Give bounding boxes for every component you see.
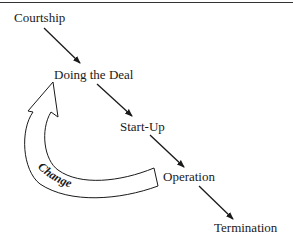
arrow-deal-to-startup: [97, 84, 132, 116]
change-feedback-arrow-icon: [25, 82, 158, 198]
stage-start-up: Start-Up: [120, 119, 165, 134]
arrow-courtship-to-deal: [44, 28, 80, 63]
stage-operation: Operation: [163, 169, 215, 184]
stage-doing-the-deal: Doing the Deal: [54, 67, 133, 82]
stage-courtship: Courtship: [14, 10, 65, 25]
arrow-operation-to-termination: [199, 186, 233, 219]
arrow-startup-to-operation: [150, 135, 184, 167]
stage-termination: Termination: [214, 220, 277, 235]
